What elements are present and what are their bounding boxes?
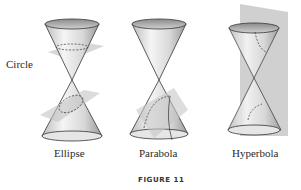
figure-caption: FIGURE 11 <box>138 176 185 184</box>
parabola-panel <box>130 19 188 140</box>
circle-label: Circle <box>6 58 33 70</box>
parabola-label: Parabola <box>139 147 177 159</box>
ellipse-label: Ellipse <box>54 147 85 159</box>
conic-sections-figure <box>0 0 301 190</box>
ellipse-panel <box>40 19 104 141</box>
hyperbola-label: Hyperbola <box>232 147 278 159</box>
hyperbola-panel <box>228 4 288 136</box>
